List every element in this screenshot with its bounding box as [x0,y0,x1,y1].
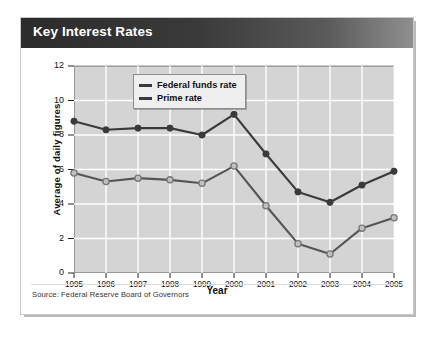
y-axis-tick-label: 4 [38,198,64,208]
source-note: Source: Federal Reserve Board of Governo… [32,290,189,299]
data-point [231,163,237,169]
data-point [359,225,365,231]
y-axis-tick-label: 12 [38,60,64,70]
data-point [359,182,365,188]
data-point [327,251,333,257]
data-point [167,177,173,183]
legend-item-federal-funds-rate: Federal funds rate [139,79,237,91]
y-axis-tick-label: 6 [38,164,64,174]
data-point [103,127,109,133]
data-point [167,125,173,131]
y-axis-tick-label: 2 [38,233,64,243]
y-axis-tick-label: 0 [38,267,64,277]
data-point [263,203,269,209]
x-axis-tick-marks [74,273,394,278]
source-divider [31,284,403,285]
legend-item-prime-rate: Prime rate [139,92,237,104]
data-point [327,199,333,205]
data-point [391,168,397,174]
chart-legend: Federal funds rate Prime rate [133,74,246,109]
legend-label-prime-rate: Prime rate [157,93,202,103]
line-chart-svg [21,18,413,314]
data-point [103,178,109,184]
legend-label-federal-funds-rate: Federal funds rate [157,80,237,90]
data-point [135,125,141,131]
data-point [295,241,301,247]
chart-card: Key Interest Rates Average of daily figu… [20,17,414,315]
data-point [199,132,205,138]
data-point [263,151,269,157]
data-point [71,170,77,176]
legend-swatch-icon-federal-funds-rate [139,84,152,87]
y-axis-tick-label: 10 [38,95,64,105]
data-point [295,189,301,195]
data-point [71,118,77,124]
y-axis-tick-label: 8 [38,129,64,139]
data-point [231,111,237,117]
data-point [135,175,141,181]
data-point [199,180,205,186]
data-point [391,215,397,221]
screenshot-root: Key Interest Rates Average of daily figu… [0,0,429,342]
legend-swatch-icon-prime-rate [139,97,152,100]
